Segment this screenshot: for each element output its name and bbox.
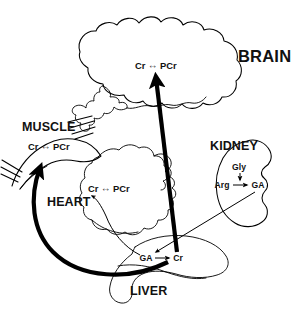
heart-reaction-label: Cr ⇔ PCr [88,183,130,194]
brain-label: BRAIN [238,47,291,65]
liver-to-brain-arrow [156,78,177,252]
kidney-label: KIDNEY [210,139,258,153]
liver-guanidinoacetate-label: GA [140,253,153,263]
muscle-organ: MUSCLE Cr ⇔ PCr [1,116,101,189]
muscle-reaction-label: Cr ⇔ PCr [28,141,70,152]
diagram-canvas: BRAIN Cr ⇔ PCr MUSCLE Cr ⇔ PCr [0,0,305,313]
liver-creatine-label: Cr [173,253,183,263]
kidney-arginine-label: Arg [215,180,230,190]
liver-outline [110,235,229,303]
brain-reaction-label: Cr ⇔ PCr [135,60,177,71]
heart-label: HEART [47,195,91,209]
muscle-striation-5 [2,160,22,172]
brain-organ: BRAIN Cr ⇔ PCr [72,17,291,131]
liver-organ: LIVER GA Cr [110,235,229,303]
muscle-label: MUSCLE [22,120,75,134]
liver-label: LIVER [130,284,167,298]
heart-apex-curve [92,220,138,233]
heart-organ: HEART Cr ⇔ PCr [47,145,176,235]
kidney-glycine-label: Gly [232,162,246,172]
kidney-guanidinoacetate-label: GA [252,180,265,190]
muscle-striation-4 [75,133,93,139]
creatine-metabolism-diagram: BRAIN Cr ⇔ PCr MUSCLE Cr ⇔ PCr [0,0,305,313]
